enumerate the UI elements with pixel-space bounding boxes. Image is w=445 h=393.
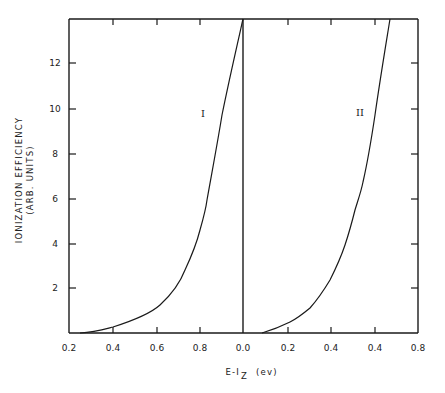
- x-axis-title-unit: (ev): [256, 367, 278, 377]
- curve-I: [80, 19, 243, 333]
- y-axis-title-line1: IONIZATION EFFICIENCY: [14, 117, 24, 244]
- x-tick-label: 0.4: [324, 343, 339, 353]
- x-tick-label: 0.4: [106, 343, 121, 353]
- x-tick-label: 0.6: [150, 343, 165, 353]
- x-tick-label: 0.4: [368, 343, 383, 353]
- x-tick-label: 0.2: [281, 343, 295, 353]
- curve-II: [262, 19, 390, 333]
- y-tick-label: 10: [49, 104, 61, 114]
- x-tick-label: 0.8: [193, 343, 208, 353]
- plot-frame: [69, 19, 418, 333]
- x-axis-title: E-I Z (ev): [225, 367, 277, 381]
- y-tick-label: 8: [52, 149, 58, 159]
- chart-canvas: I II 0.2 0.4 0.6 0.8 0.0 0.2 0.4 0.4 0.8…: [0, 0, 445, 393]
- y-tick-label: 6: [52, 194, 58, 204]
- x-tick-label: 0.2: [62, 343, 76, 353]
- x-tick-label: 0.8: [411, 343, 426, 353]
- y-tick-label: 12: [49, 58, 60, 68]
- x-tick-label: 0.0: [236, 343, 251, 353]
- y-axis-title: IONIZATION EFFICIENCY (ARB. UNITS): [14, 117, 35, 244]
- y-tick-labels: 2 4 6 8 10 12: [49, 58, 61, 293]
- x-axis-title-subscript: Z: [241, 371, 248, 381]
- curve-label-I: I: [201, 108, 205, 119]
- y-axis-title-line2: (ARB. UNITS): [25, 145, 35, 215]
- curve-label-II: II: [356, 107, 364, 118]
- x-tick-labels: 0.2 0.4 0.6 0.8 0.0 0.2 0.4 0.4 0.8: [62, 343, 426, 353]
- y-tick-label: 2: [52, 283, 58, 293]
- x-axis-title-main: E-I: [225, 367, 240, 377]
- y-tick-label: 4: [52, 239, 58, 249]
